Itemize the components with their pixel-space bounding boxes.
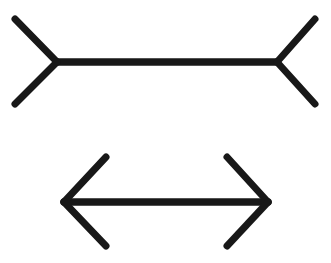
stimulus-canvas [0, 0, 331, 263]
canvas-background [0, 0, 331, 263]
muller-lyer-figure-svg [0, 0, 331, 263]
